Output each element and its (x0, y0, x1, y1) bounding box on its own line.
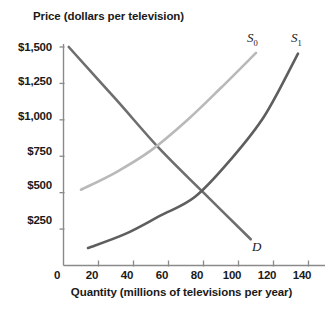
plot-area (0, 0, 335, 315)
curve-s1 (88, 54, 298, 248)
curves (69, 47, 298, 248)
supply-demand-chart: Price (dollars per television) $1,500 $1… (0, 0, 335, 315)
curve-s0 (81, 53, 256, 190)
